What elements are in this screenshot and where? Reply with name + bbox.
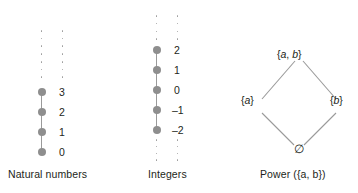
natural-label-3: 3 <box>59 86 65 98</box>
natural-node-3 <box>38 88 46 96</box>
integers-label-2: 2 <box>174 44 180 56</box>
natural-chain-edge <box>41 92 43 152</box>
power-set-node-left-text: {a} <box>241 94 254 106</box>
integers-label-minus-1: –1 <box>172 104 184 116</box>
natural-node-2 <box>38 108 46 116</box>
integers-node-1 <box>153 66 161 74</box>
power-set-node-right-text: {b} <box>330 94 343 106</box>
integers-node-minus-1 <box>153 106 161 114</box>
integers-node-ellipsis-bottom-icon <box>156 139 158 161</box>
integers-label-ellipsis-bottom-icon <box>177 139 179 161</box>
integers-caption: Integers <box>148 168 187 180</box>
natural-numbers-caption: Natural numbers <box>8 168 87 180</box>
power-set-node-top: {a, b} <box>277 48 302 60</box>
natural-node-ellipsis-icon <box>41 30 43 78</box>
integers-label-ellipsis-top-icon <box>177 15 179 40</box>
natural-node-0 <box>38 148 46 156</box>
natural-label-0: 0 <box>59 146 65 158</box>
integers-node-0 <box>153 86 161 94</box>
integers-node-minus-2 <box>153 126 161 134</box>
integers-node-ellipsis-top-icon <box>156 15 158 40</box>
hasse-diagrams-figure: 3 2 1 0 Natural numbers 2 1 0 –1 –2 <box>0 0 358 193</box>
natural-node-1 <box>38 128 46 136</box>
integers-label-0: 0 <box>174 84 180 96</box>
power-set-node-bottom-text: ∅ <box>294 142 304 156</box>
natural-label-1: 1 <box>59 126 65 138</box>
integers-label-minus-2: –2 <box>172 124 184 136</box>
power-set-caption: Power ({a, b}) <box>260 168 326 180</box>
power-set-node-top-text: {a, b} <box>277 48 302 60</box>
integers-node-2 <box>153 46 161 54</box>
power-set-node-left: {a} <box>241 94 254 106</box>
natural-label-ellipsis-icon <box>62 30 64 78</box>
power-set-node-bottom: ∅ <box>294 142 304 156</box>
power-set-node-right: {b} <box>330 94 343 106</box>
integers-label-1: 1 <box>174 64 180 76</box>
natural-label-2: 2 <box>59 106 65 118</box>
